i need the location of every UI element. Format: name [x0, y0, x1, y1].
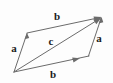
label-right-a: a	[96, 33, 102, 44]
arrowhead-bottom-b	[72, 58, 80, 63]
arrowhead-left-a	[25, 33, 30, 39]
label-bottom-b: b	[50, 69, 56, 80]
edge-diagonal-c	[14, 18, 102, 73]
label-left-a: a	[11, 43, 17, 54]
vector-diagram-figure: b a a c b	[0, 0, 113, 83]
label-top-b: b	[54, 11, 60, 22]
label-diagonal-c: c	[49, 36, 54, 47]
